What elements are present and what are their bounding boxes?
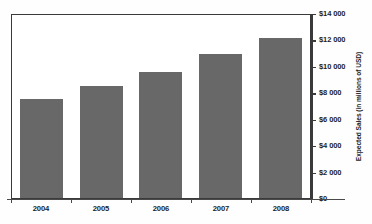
x-axis-label-2008: 2008 — [260, 204, 303, 214]
x-tick-0 — [11, 199, 12, 203]
x-tick-4 — [251, 199, 252, 203]
bar-chart-figure: $14 000$12 000$10 000$8 000$6 000$4 000$… — [0, 0, 372, 224]
y-tick-12000 — [311, 40, 316, 41]
plot-area — [11, 14, 311, 199]
bar-2004 — [20, 99, 63, 198]
y-tick-label-10000: $10 000 — [319, 63, 345, 71]
x-tick-5 — [311, 199, 312, 203]
bar-2005 — [80, 86, 123, 198]
x-axis-labels: 20042005200620072008 — [11, 204, 311, 218]
x-tick-2 — [131, 199, 132, 203]
y-tick-14000 — [311, 14, 316, 15]
y-tick-2000 — [311, 173, 316, 174]
y-tick-label-8000: $8 000 — [319, 89, 341, 97]
y-tick-4000 — [311, 146, 316, 147]
x-axis-line — [7, 199, 345, 200]
y-axis-title-text: Expected Sales (in millions of USD) — [356, 52, 363, 161]
y-tick-label-4000: $4 000 — [319, 142, 341, 150]
y-tick-label-2000: $2 000 — [319, 169, 341, 177]
x-axis-label-2004: 2004 — [20, 204, 63, 214]
y-tick-label-6000: $6 000 — [319, 116, 341, 124]
y-axis-line — [311, 14, 313, 199]
y-tick-6000 — [311, 120, 316, 121]
bars-layer — [12, 15, 310, 198]
x-tick-3 — [191, 199, 192, 203]
y-tick-label-12000: $12 000 — [319, 36, 345, 44]
x-axis-label-2007: 2007 — [200, 204, 243, 214]
y-tick-10000 — [311, 67, 316, 68]
x-axis-label-2006: 2006 — [140, 204, 183, 214]
bar-2006 — [139, 72, 182, 198]
y-tick-label-14000: $14 000 — [319, 10, 345, 18]
bar-2008 — [259, 38, 302, 198]
y-axis-title: Expected Sales (in millions of USD) — [352, 14, 366, 199]
x-tick-1 — [71, 199, 72, 203]
bar-2007 — [199, 54, 242, 198]
y-tick-8000 — [311, 93, 316, 94]
x-axis-label-2005: 2005 — [80, 204, 123, 214]
